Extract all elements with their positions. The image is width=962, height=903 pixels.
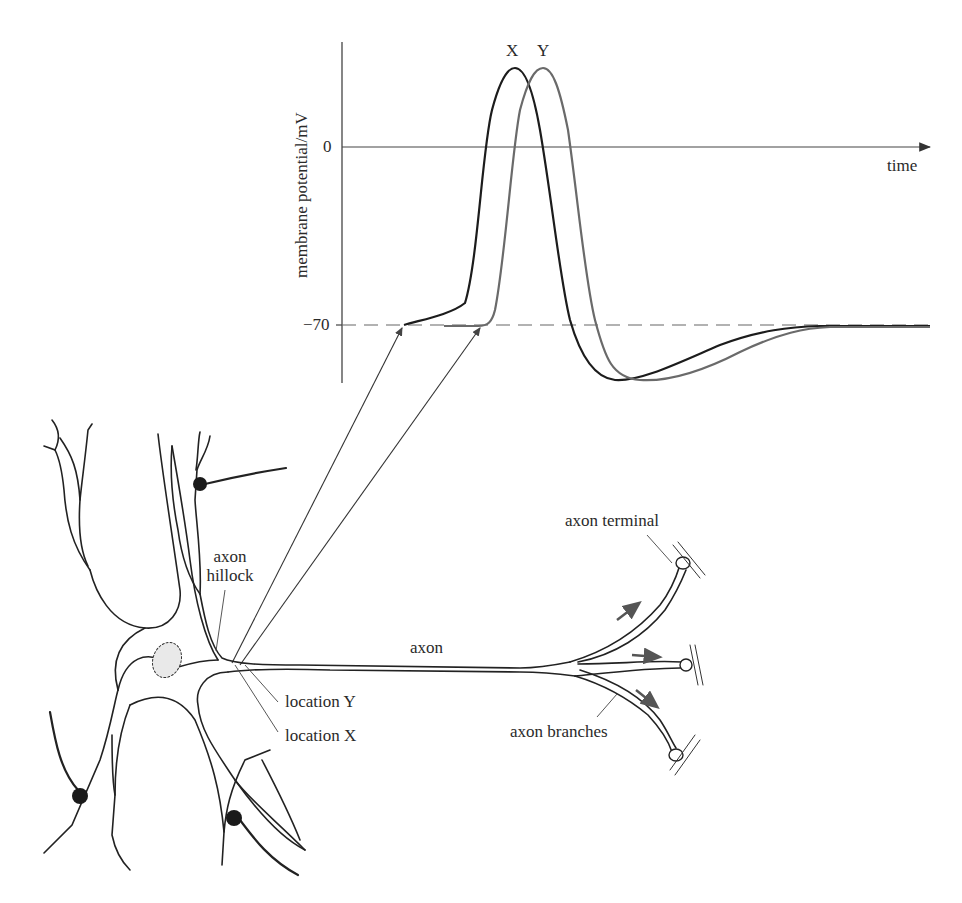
branch-arrow-upper [617,604,638,620]
label-axon-hillock-line1: axon [200,548,260,567]
label-axon-hillock-line2: hillock [200,567,260,586]
leader-location-y [245,665,278,702]
neuron [44,420,705,875]
neuron-action-potential-figure: membrane potential/mV 0 −70 time X Y axo… [0,0,962,903]
trace-y [444,68,930,380]
peak-label-y: Y [537,42,549,61]
leader-axon-terminal [647,535,672,563]
x-axis-label: time [887,157,917,176]
leader-location-x [235,665,278,732]
pointer-location-x [232,328,402,663]
tick-label-minus70: −70 [303,316,330,335]
tick-label-zero: 0 [323,138,332,157]
label-axon-hillock: axon hillock [200,548,260,585]
label-location-x: location X [285,727,356,746]
nucleus [148,638,187,681]
leader-axon-branches [597,694,617,717]
label-axon: axon [410,639,443,658]
peak-label-x: X [506,42,518,61]
branch-arrow-lower [636,690,656,706]
figure-drawing [0,0,962,903]
label-axon-terminal: axon terminal [565,512,659,531]
y-axis-label: membrane potential/mV [292,112,312,278]
pointer-location-y [240,328,480,665]
branch-arrow-middle [632,655,658,657]
graph [336,42,930,383]
label-axon-branches: axon branches [510,723,608,742]
label-location-y: location Y [285,693,356,712]
trace-x [404,68,930,380]
leader-axon-hillock [216,590,225,651]
